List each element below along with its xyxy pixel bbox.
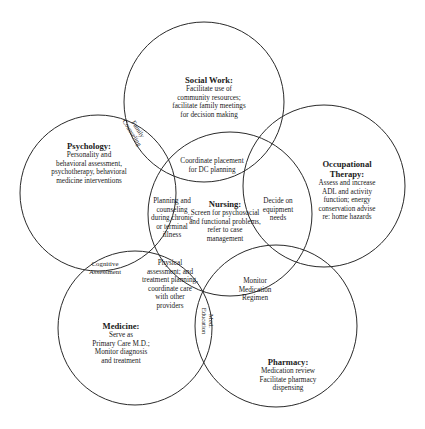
overlap-line: needs [263,214,293,223]
cognitive-assessment-label: Cognitive Assessment [89,260,121,275]
overlap-line: Cognitive [89,260,121,268]
physical-assessment-label: Physical assessment; and treatment plann… [142,259,198,311]
medicine-line: Monitor diagnosis [92,348,150,357]
occupational-therapy-label: Occupational Therapy: Assess and increas… [318,159,375,222]
nursing-line: Screen for psychosocial [189,209,261,218]
overlap-line: Med. [208,308,215,335]
overlap-line: with other [142,294,198,303]
coordinate-placement-label: Coordinate placement for DC planning [180,157,243,174]
pharmacy-line: Medication review [260,367,317,376]
psychology-line: Personality and [51,151,126,160]
social-work-line: community resources; [172,93,245,102]
overlap-line: Decide on [263,197,293,206]
overlap-line: Assessment [89,268,121,276]
decide-equipment-label: Decide on equipment needs [263,197,293,223]
overlap-line: or terminal [151,222,193,231]
circle-psychology [20,115,176,271]
overlap-line: Medication [239,286,272,295]
overlap-line: Education [201,308,208,335]
overlap-line: Monitor [239,277,272,286]
occupational-therapy-title: Occupational [318,159,375,169]
overlap-line: providers [142,302,198,311]
social-work-line: facilitate family meetings [172,102,245,111]
overlap-line: Coordinate placement [180,157,243,166]
overlap-line: assessment; and [142,268,198,277]
occupational-therapy-title: Therapy: [318,169,375,179]
nursing-title: Nursing: [189,199,261,209]
overlap-line: for DC planning [180,166,243,175]
social-work-label: Social Work: Facilitate use of community… [172,75,245,119]
monitor-medication-label: Monitor Medication Regimen [239,277,272,303]
nursing-line: management [189,235,261,244]
medicine-line: Serve as [92,331,150,340]
planning-counseling-label: Planning and counseling during chronic o… [151,197,193,240]
nursing-line: refer to case [189,226,261,235]
social-work-line: Facilitate use of [172,85,245,94]
medicine-line: Primary Care M.D.; [92,339,150,348]
social-work-title: Social Work: [172,75,245,85]
pharmacy-line: dispensing [260,384,317,393]
occupational-therapy-line: ADL and activity [318,187,375,196]
overlap-line: illness [151,231,193,240]
occupational-therapy-line: conservation advise [318,204,375,213]
overlap-line: during chronic [151,214,193,223]
nursing-line: and functional problems, [189,217,261,226]
medicine-title: Medicine: [92,321,150,331]
pharmacy-line: Facilitate pharmacy [260,376,317,385]
occupational-therapy-line: Assess and increase [318,179,375,188]
medicine-label: Medicine: Serve as Primary Care M.D.; Mo… [92,321,150,365]
overlap-line: Physical [142,259,198,268]
overlap-line: coordinate care [142,285,198,294]
medicine-line: and treatment [92,357,150,366]
nursing-label: Nursing: Screen for psychosocial and fun… [189,199,261,243]
psychology-line: medicine interventions [51,177,126,186]
psychology-label: Psychology: Personality and behavioral a… [51,141,126,185]
psychology-line: behavioral assessment, [51,159,126,168]
med-education-label: Med. Education [201,308,216,335]
psychology-line: psychotherapy, behavioral [51,168,126,177]
occupational-therapy-line: re: home hazards [318,213,375,222]
overlap-line: treatment planning, [142,276,198,285]
overlap-line: equipment [263,206,293,215]
psychology-title: Psychology: [51,141,126,151]
pharmacy-title: Pharmacy: [260,357,317,367]
social-work-line: for decision making [172,111,245,120]
occupational-therapy-line: function; energy [318,196,375,205]
overlap-line: counseling [151,205,193,214]
pharmacy-label: Pharmacy: Medication review Facilitate p… [260,357,317,393]
overlap-line: Regimen [239,294,272,303]
overlap-line: Planning and [151,197,193,206]
